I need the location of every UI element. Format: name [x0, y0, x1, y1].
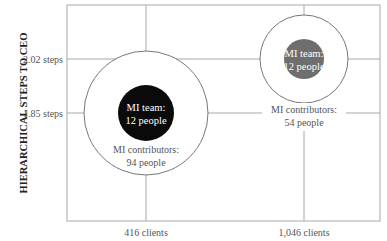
- x-tick-label: 416 clients: [124, 227, 168, 238]
- inner-label-line1: MI team:: [127, 102, 166, 113]
- outer-label-line1: MI contributors:: [271, 104, 337, 115]
- y-tick-label: 2.02 steps: [23, 54, 63, 65]
- y-tick-label: 1.85 steps: [23, 108, 63, 119]
- outer-label-line2: 94 people: [126, 157, 166, 168]
- y-axis-label: HIERARCHICAL STEPS TO CEO: [18, 33, 29, 194]
- inner-bubble-team: [118, 85, 174, 141]
- inner-label-line1: MI team:: [285, 48, 324, 59]
- bubble-chart: 416 clients1,046 clients2.02 steps1.85 s…: [0, 0, 387, 241]
- x-tick-label: 1,046 clients: [278, 227, 329, 238]
- inner-label-line2: 12 people: [283, 61, 324, 72]
- inner-bubble-team: [284, 39, 324, 79]
- outer-label-line2: 54 people: [284, 117, 324, 128]
- outer-label-line1: MI contributors:: [113, 144, 179, 155]
- inner-label-line2: 12 people: [125, 115, 166, 126]
